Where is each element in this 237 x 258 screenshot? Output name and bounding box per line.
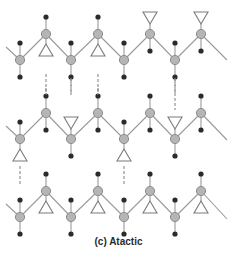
figure-caption: (c) Atactic <box>0 236 237 247</box>
hydrogen-atom-icon <box>147 171 152 176</box>
backbone-bond <box>201 191 227 219</box>
hydrogen-atom-icon <box>147 48 152 53</box>
hydrogen-atom-icon <box>172 153 177 158</box>
backbone-bond <box>98 113 124 139</box>
backbone-bond <box>20 113 46 139</box>
backbone-bond <box>124 113 150 139</box>
hydrogen-atom-icon <box>17 74 22 79</box>
side-group-triangle-icon <box>39 44 53 56</box>
carbon-atom-icon <box>93 108 102 117</box>
side-group-triangle-icon <box>194 12 208 24</box>
carbon-atom-icon <box>119 212 128 221</box>
side-group-triangle-icon <box>39 201 53 213</box>
hydrogen-atom-icon <box>17 119 22 124</box>
hydrogen-atom-icon <box>68 40 73 45</box>
hydrogen-atom-icon <box>17 197 22 202</box>
carbon-atom-icon <box>145 186 154 195</box>
carbon-atom-icon <box>119 134 128 143</box>
hydrogen-atom-icon <box>147 93 152 98</box>
hydrogen-atom-icon <box>198 93 203 98</box>
side-group-triangle-icon <box>13 149 27 161</box>
hydrogen-atom-icon <box>68 197 73 202</box>
carbon-atom-icon <box>41 108 50 117</box>
hydrogen-atom-icon <box>43 171 48 176</box>
side-group-triangle-icon <box>143 12 157 24</box>
backbone-bond <box>175 34 201 60</box>
hydrogen-atom-icon <box>198 127 203 132</box>
hydrogen-atom-icon <box>172 197 177 202</box>
carbon-atom-icon <box>196 186 205 195</box>
hydrogen-atom-icon <box>43 14 48 19</box>
backbone-bond <box>201 113 227 140</box>
hydrogen-atom-icon <box>121 197 126 202</box>
backbone-bond <box>150 34 175 60</box>
backbone-bond <box>201 34 227 60</box>
hydrogen-atom-icon <box>95 127 100 132</box>
carbon-atom-icon <box>66 55 75 64</box>
carbon-atom-icon <box>41 29 50 38</box>
hydrogen-atom-icon <box>95 14 100 19</box>
carbon-atom-icon <box>145 29 154 38</box>
side-group-triangle-icon <box>194 201 208 213</box>
carbon-atom-icon <box>15 212 24 221</box>
hydrogen-atom-icon <box>17 40 22 45</box>
carbon-atom-icon <box>66 212 75 221</box>
hydrogen-atom-icon <box>68 153 73 158</box>
carbon-atom-icon <box>145 108 154 117</box>
carbon-atom-icon <box>93 186 102 195</box>
hydrogen-atom-icon <box>121 119 126 124</box>
carbon-atom-icon <box>93 29 102 38</box>
atactic-polymer-diagram <box>0 0 237 258</box>
carbon-atom-icon <box>170 55 179 64</box>
hydrogen-atom-icon <box>121 74 126 79</box>
carbon-atom-icon <box>15 134 24 143</box>
hydrogen-atom-icon <box>172 40 177 45</box>
hydrogen-atom-icon <box>198 171 203 176</box>
side-group-triangle-icon <box>64 117 78 129</box>
side-group-triangle-icon <box>91 201 105 213</box>
side-group-triangle-icon <box>143 201 157 213</box>
carbon-atom-icon <box>15 55 24 64</box>
side-group-triangle-icon <box>91 44 105 56</box>
hydrogen-atom-icon <box>147 127 152 132</box>
carbon-atom-icon <box>170 134 179 143</box>
hydrogen-atom-icon <box>121 40 126 45</box>
side-group-triangle-icon <box>168 117 182 129</box>
hydrogen-atom-icon <box>43 127 48 132</box>
carbon-atom-icon <box>41 186 50 195</box>
hydrogen-atom-icon <box>198 48 203 53</box>
carbon-atom-icon <box>196 108 205 117</box>
hydrogen-atom-icon <box>95 171 100 176</box>
carbon-atom-icon <box>119 55 128 64</box>
carbon-atom-icon <box>66 134 75 143</box>
carbon-atom-icon <box>170 212 179 221</box>
carbon-atom-icon <box>196 29 205 38</box>
backbone-bond <box>124 34 150 60</box>
side-group-triangle-icon <box>117 149 131 161</box>
